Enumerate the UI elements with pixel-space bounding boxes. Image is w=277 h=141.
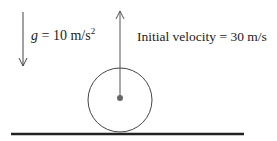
- diagram-canvas: [0, 0, 277, 141]
- velocity-arrow: [116, 11, 124, 98]
- gravity-symbol: g: [31, 28, 38, 43]
- gravity-value: = 10 m/s: [38, 28, 91, 43]
- initial-velocity-label: Initial velocity = 30 m/s: [137, 29, 267, 45]
- gravity-label: g = 10 m/s2: [31, 26, 95, 44]
- gravity-arrow: [19, 12, 27, 66]
- gravity-exponent: 2: [91, 26, 96, 36]
- ball-center-dot: [117, 95, 123, 101]
